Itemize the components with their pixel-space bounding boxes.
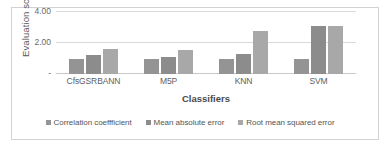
bar: [294, 59, 309, 74]
x-axis-tick-labels: CfsGSRBANNM5PKNNSVM: [56, 76, 356, 89]
bar: [86, 55, 101, 74]
y-axis-tick-label: 4.00: [17, 6, 51, 16]
bar: [69, 59, 84, 74]
legend-swatch-icon: [146, 120, 151, 125]
bar-group: [56, 12, 131, 74]
y-axis-tick-label: 2.00: [17, 37, 51, 47]
x-axis-title: Classifiers: [56, 93, 356, 104]
legend-swatch-icon: [238, 120, 243, 125]
bar: [253, 31, 268, 74]
bar: [144, 59, 159, 74]
bar: [178, 50, 193, 74]
chart-figure: Evaluation score -2.004.00 CfsGSRBANNM5P…: [0, 0, 391, 157]
legend-label: Mean absolute error: [154, 118, 225, 127]
x-axis-tick-label: SVM: [281, 76, 356, 89]
bar: [161, 57, 176, 74]
bar: [219, 59, 234, 74]
bar: [328, 26, 343, 74]
bar: [236, 54, 251, 74]
legend-label: Correlation coeffficient: [54, 118, 132, 127]
legend-label: Root mean squared error: [246, 118, 334, 127]
legend-swatch-icon: [46, 120, 51, 125]
bar-group: [281, 12, 356, 74]
x-axis-tick-label: KNN: [206, 76, 281, 89]
bar: [103, 49, 118, 74]
plot-area: -2.004.00: [56, 12, 356, 74]
x-axis-tick-label: CfsGSRBANN: [56, 76, 131, 89]
legend-item[interactable]: Correlation coeffficient: [46, 118, 132, 127]
chart-legend: Correlation coeffficientMean absolute er…: [14, 118, 366, 127]
bar-group: [206, 12, 281, 74]
bar-groups: [56, 12, 356, 74]
bar: [311, 26, 326, 74]
legend-item[interactable]: Root mean squared error: [238, 118, 334, 127]
x-axis-tick-label: M5P: [131, 76, 206, 89]
legend-item[interactable]: Mean absolute error: [146, 118, 225, 127]
y-axis-tick-label: -: [17, 68, 51, 78]
bar-group: [131, 12, 206, 74]
